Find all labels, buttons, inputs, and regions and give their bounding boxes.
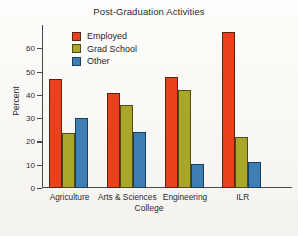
bar-other [133, 132, 146, 188]
bar-grad [178, 90, 191, 188]
legend-item-grad-school: Grad School [72, 44, 137, 54]
legend-swatch-icon-employed [72, 32, 81, 41]
x-tick-label: Arts & Sciences [98, 192, 157, 202]
bar-grad [235, 137, 248, 188]
legend-label-grad-school: Grad School [87, 44, 137, 54]
legend-item-other: Other [72, 56, 137, 66]
bar-employed [165, 77, 178, 188]
y-tick-label: 30 [26, 114, 35, 123]
y-tick-label: 50 [26, 67, 35, 76]
bar-other [191, 164, 204, 188]
bar-grad [120, 105, 133, 188]
bar-other [248, 162, 261, 188]
y-axis-label: Percent [11, 71, 21, 131]
bar-employed [49, 79, 62, 188]
x-tick-label: ILR [236, 192, 249, 202]
bar-chart: Post-Graduation Activities Percent 01020… [0, 0, 298, 236]
bar-other [75, 118, 88, 188]
bar-group: ILR [222, 25, 263, 188]
y-tick-mark [37, 188, 42, 189]
y-tick-label: 20 [26, 137, 35, 146]
x-tick-label: Engineering [163, 192, 207, 202]
legend-swatch-icon-grad-school [72, 44, 81, 53]
bar-employed [222, 32, 235, 188]
y-tick-label: 0 [31, 184, 35, 193]
bar-grad [62, 133, 75, 188]
x-tick-label: Agriculture [50, 192, 90, 202]
legend-item-employed: Employed [72, 31, 137, 41]
y-tick-label: 10 [26, 160, 35, 169]
chart-title: Post-Graduation Activities [0, 6, 298, 17]
y-tick-label: 60 [26, 44, 35, 53]
legend-label-employed: Employed [87, 31, 127, 41]
legend-label-other: Other [87, 56, 110, 66]
bar-group: Engineering [165, 25, 206, 188]
x-axis-label: College [0, 203, 298, 213]
bar-employed [107, 93, 120, 188]
y-tick-label: 40 [26, 90, 35, 99]
chart-legend: Employed Grad School Other [72, 31, 137, 69]
legend-swatch-icon-other [72, 57, 81, 66]
